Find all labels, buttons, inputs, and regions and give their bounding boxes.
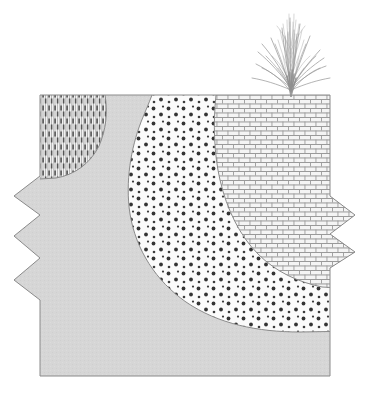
block-body [0,90,365,390]
figure-root: Geological block diagram cross-section S… [0,0,365,406]
geological-block-diagram: Geological block diagram cross-section S… [0,0,365,406]
shrub [252,14,330,96]
